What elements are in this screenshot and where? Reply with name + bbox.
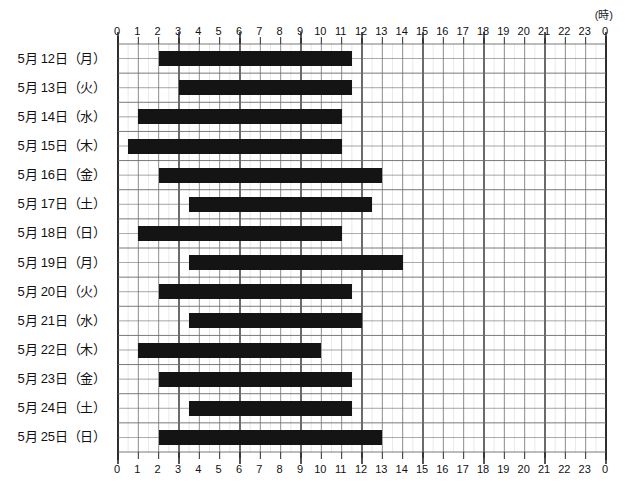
x-tick-label-0: 0 (114, 462, 120, 476)
bar-row-4 (159, 168, 383, 183)
x-tick-label-24: 0 (602, 462, 608, 476)
x-tick-label-10: 10 (314, 462, 326, 476)
x-tick-label-5: 5 (216, 462, 222, 476)
x-tick-label-14: 14 (396, 462, 408, 476)
x-tick-label-1: 1 (134, 462, 140, 476)
plot-area (117, 44, 607, 452)
x-tick-label-21: 21 (538, 462, 550, 476)
x-tick-label-12: 12 (355, 462, 367, 476)
x-axis-bottom-ticks: 012345678910111213141516171819202122230 (0, 462, 627, 476)
bar-row-1 (179, 80, 352, 95)
bar-row-6 (138, 226, 341, 241)
x-tick-label-3: 3 (175, 462, 181, 476)
bar-row-3 (128, 139, 342, 154)
x-tick-label-18: 18 (477, 462, 489, 476)
x-tick-label-8: 8 (277, 462, 283, 476)
x-tick-label-4: 4 (195, 462, 201, 476)
x-tick-label-22: 22 (558, 462, 570, 476)
x-tick-label-16: 16 (436, 462, 448, 476)
bar-row-10 (138, 343, 321, 358)
x-tick-label-15: 15 (416, 462, 428, 476)
bar-row-12 (189, 401, 352, 416)
x-tick-label-7: 7 (256, 462, 262, 476)
bar-row-5 (189, 197, 372, 212)
bar-row-2 (138, 109, 341, 124)
x-tick-label-23: 23 (579, 462, 591, 476)
x-tick-label-6: 6 (236, 462, 242, 476)
x-tick-label-2: 2 (155, 462, 161, 476)
x-tick-label-19: 19 (497, 462, 509, 476)
bars-layer (118, 44, 606, 452)
x-tick-label-9: 9 (297, 462, 303, 476)
sleep-log-gantt-chart: (時) 012345678910111213141516171819202122… (0, 0, 627, 490)
bar-row-8 (159, 284, 352, 299)
bar-row-0 (159, 51, 352, 66)
bar-row-7 (189, 255, 403, 270)
x-tick-label-17: 17 (457, 462, 469, 476)
x-tick-label-13: 13 (375, 462, 387, 476)
x-tick-label-20: 20 (518, 462, 530, 476)
bar-row-11 (159, 372, 352, 387)
bar-row-9 (189, 313, 362, 328)
bar-row-13 (159, 430, 383, 445)
x-tick-label-11: 11 (335, 462, 346, 476)
